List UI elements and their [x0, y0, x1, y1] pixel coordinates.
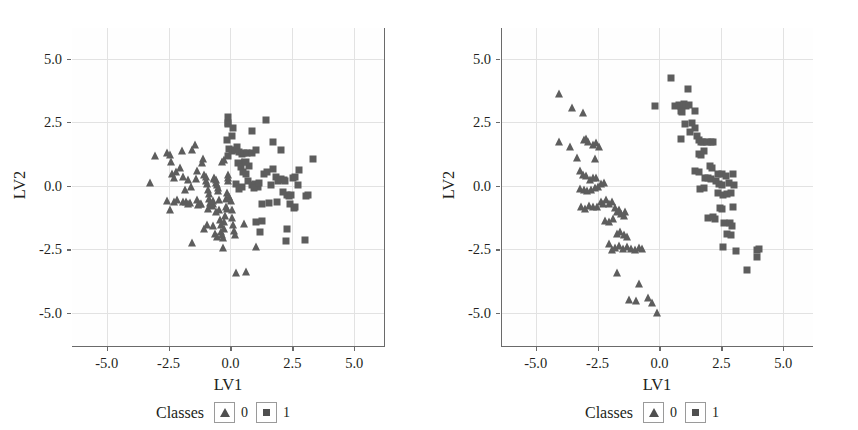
square-marker — [729, 171, 736, 178]
triangle-marker — [227, 197, 235, 205]
triangle-marker — [240, 219, 248, 227]
triangle-marker — [214, 187, 222, 195]
square-marker — [301, 236, 308, 243]
gridline-horizontal — [501, 59, 813, 60]
triangle-marker — [242, 268, 250, 276]
triangle-marker — [566, 143, 574, 151]
triangle-marker — [649, 408, 659, 417]
gridline-vertical — [354, 28, 355, 346]
square-marker — [294, 182, 301, 189]
x-axis-tick — [721, 347, 722, 351]
triangle-marker — [191, 141, 199, 149]
square-marker — [230, 124, 237, 131]
x-axis-tick-label: -5.0 — [524, 355, 547, 372]
x-axis-tick-label: -2.5 — [586, 355, 609, 372]
y-axis-tick — [67, 59, 71, 60]
square-marker — [242, 159, 249, 166]
triangle-marker — [600, 178, 608, 186]
y-axis-tick — [67, 186, 71, 187]
triangle-marker — [638, 244, 646, 252]
square-marker — [259, 217, 266, 224]
x-axis-title: LV1 — [643, 375, 672, 395]
legend: Classes01 — [585, 402, 722, 423]
triangle-marker — [220, 225, 228, 233]
triangle-marker — [213, 233, 221, 241]
y-axis-tick-label: 2.5 — [439, 114, 491, 131]
square-marker — [269, 138, 276, 145]
plot-area — [72, 28, 384, 346]
triangle-marker — [151, 152, 159, 160]
gridline-vertical — [107, 28, 108, 346]
triangle-marker — [232, 268, 240, 276]
legend-title: Classes — [585, 404, 633, 422]
gridline-horizontal — [501, 249, 813, 250]
x-axis-tick — [598, 347, 599, 351]
triangle-marker — [212, 208, 220, 216]
gridline-vertical — [292, 28, 293, 346]
triangle-marker — [193, 167, 201, 175]
legend-label-0: 0 — [241, 405, 248, 421]
x-axis-tick — [536, 347, 537, 351]
gridline-horizontal — [501, 122, 813, 123]
gridline-horizontal — [72, 186, 384, 187]
square-marker — [756, 245, 763, 252]
square-marker — [692, 409, 699, 416]
y-axis-tick-label: -2.5 — [439, 241, 491, 258]
y-axis-tick-label: -5.0 — [439, 304, 491, 321]
triangle-marker — [188, 239, 196, 247]
y-axis-tick-label: 2.5 — [10, 114, 62, 131]
triangle-marker — [176, 164, 184, 172]
square-marker — [267, 182, 274, 189]
square-marker — [684, 85, 691, 92]
triangle-marker — [178, 147, 186, 155]
triangle-marker — [200, 225, 208, 233]
square-marker — [274, 198, 281, 205]
x-axis-tick — [230, 347, 231, 351]
y-axis-tick — [496, 122, 500, 123]
y-axis-tick-label: -5.0 — [10, 304, 62, 321]
square-marker — [264, 169, 271, 176]
square-marker — [718, 206, 725, 213]
y-axis-tick — [67, 313, 71, 314]
square-marker — [667, 74, 674, 81]
legend-key-0[interactable] — [643, 402, 664, 423]
legend-label-0: 0 — [670, 405, 677, 421]
triangle-marker — [231, 230, 239, 238]
x-axis-tick-label: 5.0 — [774, 355, 792, 372]
triangle-marker — [219, 244, 227, 252]
x-axis-tick — [292, 347, 293, 351]
x-axis-tick — [659, 347, 660, 351]
legend-key-0[interactable] — [214, 402, 235, 423]
panel-left: -5.0-2.50.02.55.0-5.0-2.50.02.55.0LV1LV2… — [0, 0, 429, 430]
legend-key-1[interactable] — [256, 402, 277, 423]
square-marker — [718, 182, 725, 189]
triangle-marker — [223, 205, 231, 213]
square-marker — [282, 178, 289, 185]
legend-key-1[interactable] — [685, 402, 706, 423]
y-axis-tick — [67, 249, 71, 250]
legend-label-1: 1 — [283, 405, 290, 421]
square-marker — [292, 173, 299, 180]
gridline-vertical — [659, 28, 660, 346]
square-marker — [252, 146, 259, 153]
square-marker — [728, 222, 735, 229]
triangle-marker — [166, 205, 174, 213]
triangle-marker — [167, 157, 175, 165]
square-marker — [305, 192, 312, 199]
triangle-marker — [224, 171, 232, 179]
x-axis-tick-label: -5.0 — [95, 355, 118, 372]
y-axis-line — [384, 28, 385, 347]
y-axis-tick — [496, 249, 500, 250]
y-axis-tick — [496, 59, 500, 60]
y-axis-tick — [496, 313, 500, 314]
square-marker — [255, 179, 262, 186]
triangle-marker — [595, 143, 603, 151]
square-marker — [754, 254, 761, 261]
x-axis-tick-label: -2.5 — [157, 355, 180, 372]
triangle-marker — [555, 90, 563, 98]
square-marker — [720, 244, 727, 251]
gridline-horizontal — [72, 59, 384, 60]
gridline-horizontal — [501, 186, 813, 187]
x-axis-tick — [354, 347, 355, 351]
triangle-marker — [591, 155, 599, 163]
